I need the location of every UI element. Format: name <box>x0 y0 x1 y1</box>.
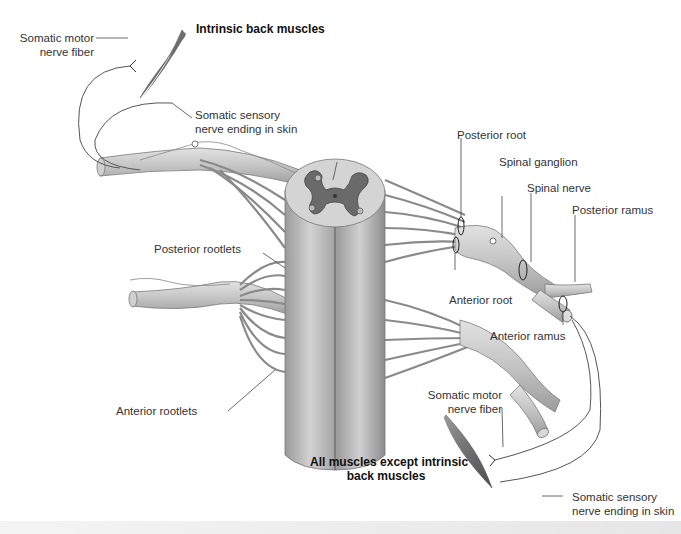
label-line: Somatic motor <box>410 388 502 402</box>
label-somatic-motor-top: Somatic motor nerve fiber <box>14 31 94 59</box>
left-rootlets <box>200 160 285 372</box>
label-line: nerve ending in skin <box>572 504 674 518</box>
label-anterior-rootlets: Anterior rootlets <box>116 404 197 418</box>
label-line: nerve fiber <box>410 402 502 416</box>
label-all-muscles-except-intrinsic: All muscles except intrinsic back muscle… <box>310 455 462 483</box>
left-upper-nerve <box>97 141 300 185</box>
label-line: nerve fiber <box>14 45 94 59</box>
label-posterior-ramus: Posterior ramus <box>572 203 653 217</box>
bottom-edge-bar <box>0 521 681 534</box>
motor-end-plate-bottom-icon <box>489 455 495 466</box>
spinal-cord <box>285 159 385 470</box>
label-line: Somatic sensory <box>195 108 297 122</box>
label-somatic-motor-bottom: Somatic motor nerve fiber <box>410 388 502 416</box>
label-line: All muscles except intrinsic <box>310 455 462 469</box>
label-posterior-rootlets: Posterior rootlets <box>154 242 241 256</box>
label-line: back muscles <box>310 469 462 483</box>
label-line: nerve ending in skin <box>195 122 297 136</box>
label-intrinsic-back-muscles: Intrinsic back muscles <box>196 22 325 36</box>
intrinsic-back-muscle <box>140 30 186 98</box>
label-posterior-root: Posterior root <box>457 128 526 142</box>
label-spinal-nerve: Spinal nerve <box>527 181 591 195</box>
left-lower-nerve <box>129 278 290 315</box>
label-line: Somatic motor <box>14 31 94 45</box>
right-rootlets <box>385 180 470 378</box>
label-spinal-ganglion: Spinal ganglion <box>499 155 578 169</box>
motor-end-plate-top-icon <box>130 60 136 72</box>
label-anterior-root: Anterior root <box>449 293 512 307</box>
label-anterior-ramus: Anterior ramus <box>490 329 565 343</box>
label-somatic-sensory-bottom: Somatic sensory nerve ending in skin <box>572 490 674 518</box>
label-somatic-sensory-top: Somatic sensory nerve ending in skin <box>195 108 297 136</box>
spinal-cord-diagram <box>0 0 681 534</box>
label-line: Somatic sensory <box>572 490 674 504</box>
